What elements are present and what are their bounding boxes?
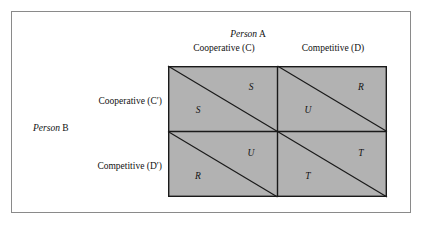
payoff-cc-upper: S <box>249 83 254 93</box>
column-header-cooperative: Cooperative (C) <box>193 44 254 54</box>
row-player-label: Person B <box>33 124 69 134</box>
payoff-cd-lower: U <box>305 106 312 116</box>
payoff-dc-lower: R <box>195 172 201 182</box>
row-header-competitive: Competitive (D′) <box>97 162 162 172</box>
payoff-dd-lower: T <box>305 172 310 182</box>
row-player-name: B <box>62 123 68 133</box>
row-header-cooperative: Cooperative (C′) <box>98 97 162 107</box>
payoff-cc-lower: S <box>196 106 201 116</box>
figure-canvas: Person A Cooperative (C) Competitive (D)… <box>0 0 424 227</box>
column-player-name: A <box>259 29 266 39</box>
row-player-prefix: Person <box>33 123 60 133</box>
payoff-dc-upper: U <box>248 149 255 159</box>
payoff-matrix: S S R U U R T T <box>168 66 387 197</box>
column-player-prefix: Person <box>230 29 257 39</box>
column-player-label: Person A <box>230 30 266 40</box>
payoff-dd-upper: T <box>358 149 363 159</box>
payoff-cd-upper: R <box>358 83 364 93</box>
column-header-competitive: Competitive (D) <box>302 44 365 54</box>
